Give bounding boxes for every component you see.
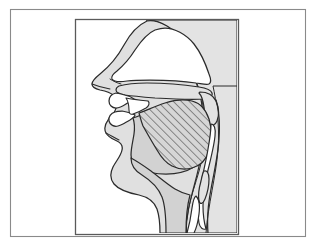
vocal-tract-diagram: Mid-sagittal section of the human vocal … [0, 0, 318, 245]
vocal-tract-figure: Mid-sagittal section of the human vocal … [0, 0, 318, 245]
